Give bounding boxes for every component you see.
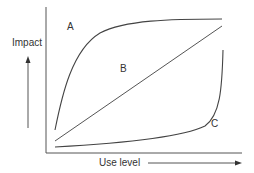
curve-b-label: B (120, 64, 127, 74)
line-b (55, 26, 222, 141)
curve-c (55, 50, 223, 147)
y-axis-label: Impact (12, 38, 42, 48)
curve-a-label: A (67, 22, 74, 32)
use-level-arrow-right-icon (235, 161, 242, 166)
curve-c-label: C (211, 119, 218, 129)
curve-a (55, 19, 222, 130)
diagram-canvas (0, 0, 254, 173)
impact-arrow-up-icon (26, 56, 31, 63)
x-axis-label: Use level (99, 158, 140, 168)
